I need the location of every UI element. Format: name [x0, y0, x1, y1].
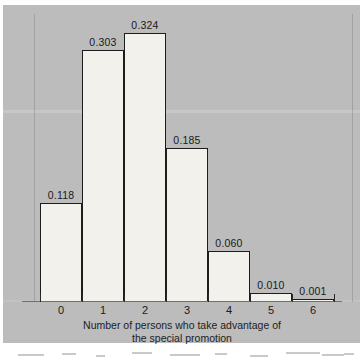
x-tick-mark-0 — [40, 294, 41, 302]
bar-1 — [82, 50, 124, 301]
bar-value-label-4: 0.060 — [200, 237, 258, 249]
scan-speck — [96, 355, 105, 357]
bar-value-label-2: 0.324 — [116, 19, 174, 31]
scan-speck — [344, 353, 354, 355]
x-tick-label-1: 1 — [82, 304, 124, 316]
bar-6 — [292, 299, 334, 301]
x-tick-mark-3 — [166, 294, 167, 302]
scan-speck — [215, 353, 227, 355]
x-axis-title-line-2: the special promotion — [22, 332, 342, 345]
bar-0 — [40, 203, 82, 301]
scan-speck — [132, 352, 152, 354]
x-tick-label-6: 6 — [292, 304, 334, 316]
x-tick-label-3: 3 — [166, 304, 208, 316]
x-tick-label-0: 0 — [40, 304, 82, 316]
x-tick-mark-2 — [124, 294, 125, 302]
x-tick-label-4: 4 — [208, 304, 250, 316]
x-axis-line — [22, 301, 342, 302]
x-axis-title: Number of persons who take advantage of … — [22, 319, 342, 345]
x-tick-mark-1 — [82, 294, 83, 302]
chart-figure: 0.1180.3030.3240.1850.0600.0100.001 0123… — [0, 0, 363, 363]
bar-4 — [208, 251, 250, 301]
bar-value-label-3: 0.185 — [158, 134, 216, 146]
bar-3 — [166, 148, 208, 301]
plot-area: 0.1180.3030.3240.1850.0600.0100.001 0123… — [0, 0, 363, 363]
scan-speck — [286, 352, 320, 354]
x-tick-mark-end — [334, 294, 335, 302]
x-tick-mark-4 — [208, 294, 209, 302]
x-tick-label-2: 2 — [124, 304, 166, 316]
bar-2 — [124, 33, 166, 301]
x-tick-mark-6 — [292, 294, 293, 302]
scan-speck — [18, 354, 44, 356]
scan-speck — [62, 353, 76, 355]
scan-speck — [170, 354, 200, 356]
x-tick-mark-5 — [250, 294, 251, 302]
scan-speck — [250, 355, 268, 357]
x-tick-label-5: 5 — [250, 304, 292, 316]
scan-noise-strip — [0, 349, 363, 363]
x-axis-title-line-1: Number of persons who take advantage of — [22, 319, 342, 332]
scan-speck — [322, 354, 344, 356]
